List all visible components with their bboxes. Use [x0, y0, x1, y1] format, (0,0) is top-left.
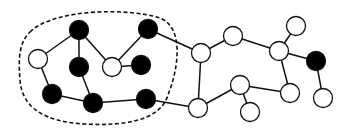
graph-diagram [0, 0, 351, 133]
empty-node-O [231, 76, 250, 95]
filled-node-I [137, 90, 156, 109]
empty-node-K [224, 27, 243, 46]
empty-node-J [192, 44, 211, 63]
empty-node-A [29, 50, 48, 69]
filled-node-N [307, 52, 326, 71]
empty-node-L [270, 42, 289, 61]
empty-node-Q [314, 89, 333, 108]
empty-node-P [281, 84, 300, 103]
empty-node-M [287, 17, 306, 36]
filled-node-B [70, 21, 89, 40]
filled-node-G [43, 85, 62, 104]
empty-node-S [189, 99, 208, 118]
graph-nodes [29, 17, 333, 122]
empty-node-D [103, 58, 122, 77]
filled-node-C [70, 58, 89, 77]
filled-node-H [84, 94, 103, 113]
filled-node-F [132, 56, 151, 75]
filled-node-E [139, 20, 158, 39]
empty-node-R [241, 103, 260, 122]
